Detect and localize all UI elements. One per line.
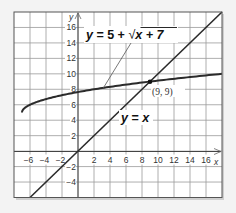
line-label-x: x [141,111,150,125]
line-label: y = x [120,111,150,125]
graph: −6−4−2246810121416 161412108642−2−4 x y … [0,0,236,213]
line-label-eq: = [128,111,142,125]
y-tick-label: 4 [71,115,76,125]
point-label: (9, 9) [152,87,173,98]
x-tick-label: 4 [108,155,113,165]
y-axis-label: y [68,12,74,22]
x-axis-label: x [213,157,219,167]
x-tick-label: 10 [153,155,163,165]
x-tick-label: 14 [185,155,195,165]
y-tick-label: 12 [67,53,77,63]
intersection-point [148,79,153,84]
curve-label: y = 5 + √x + 7 [85,28,164,42]
y-tick-label: 10 [67,69,77,79]
x-tick-label: −2 [56,155,66,165]
x-tick-label: 8 [140,155,145,165]
y-tick-label: 16 [67,22,77,32]
x-tick-label: 6 [124,155,129,165]
curve-label-radicand: x + 7 [134,28,164,42]
y-tick-label: −2 [66,162,76,172]
x-tick-label: −4 [40,155,50,165]
y-tick-label: −4 [66,177,76,187]
y-tick-label: 2 [71,131,76,141]
x-tick-label: −6 [24,155,34,165]
x-tick-label: 2 [92,155,97,165]
x-tick-label: 16 [201,155,211,165]
curve-label-eq: = 5 + [93,28,128,42]
x-tick-label: 12 [169,155,179,165]
y-tick-label: 6 [71,100,76,110]
y-tick-label: 14 [67,38,77,48]
